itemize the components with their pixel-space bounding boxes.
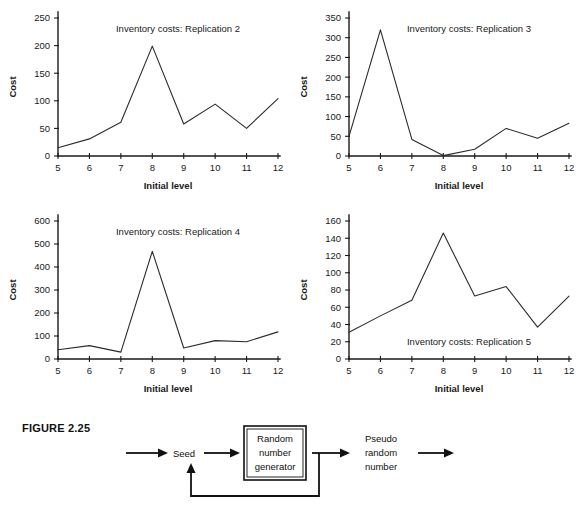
x-tick-label: 8	[150, 162, 155, 173]
x-axis-title: Initial level	[144, 180, 193, 191]
x-tick-label: 11	[533, 365, 543, 376]
x-tick-label: 10	[210, 365, 221, 376]
random-number-generator-flow-diagram: Seed Random number generator Pseudo rand…	[120, 413, 460, 503]
x-tick-label: 7	[118, 365, 123, 376]
figure-label: FIGURE 2.25	[22, 422, 90, 434]
x-axis-title: Initial level	[435, 383, 484, 394]
x-tick-label: 6	[87, 365, 92, 376]
x-tick-label: 5	[55, 365, 60, 376]
x-tick-label: 12	[564, 365, 575, 376]
chart-replication-3: 05010015020025030035056789101112Initial …	[291, 0, 581, 202]
y-axis-title: Cost	[298, 279, 309, 301]
x-tick-label: 6	[87, 162, 92, 173]
y-axis-ticks: 020406080100120140160	[325, 215, 350, 364]
y-tick-label: 100	[34, 330, 50, 341]
x-tick-label: 9	[181, 162, 186, 173]
x-tick-label: 9	[472, 162, 477, 173]
flow-node-generator-line1: Random	[257, 433, 293, 444]
y-tick-label: 0	[336, 150, 341, 161]
x-tick-label: 7	[118, 162, 123, 173]
x-tick-label: 12	[564, 162, 575, 173]
generator-to-output-arrow-icon	[312, 449, 350, 458]
x-tick-label: 10	[501, 162, 512, 173]
y-tick-label: 150	[325, 91, 341, 102]
x-tick-label: 5	[346, 162, 351, 173]
output-arrow-icon	[418, 449, 454, 458]
y-tick-label: 40	[330, 319, 341, 330]
y-axis-title: Cost	[7, 76, 18, 98]
y-tick-label: 100	[325, 267, 341, 278]
y-tick-label: 0	[336, 353, 341, 364]
seed-to-generator-arrow-icon	[204, 449, 240, 458]
chart-svg: 010020030040050060056789101112Initial le…	[0, 203, 290, 405]
x-tick-label: 8	[441, 365, 446, 376]
x-tick-label: 6	[378, 162, 383, 173]
x-tick-label: 10	[210, 162, 221, 173]
data-series-line	[349, 233, 569, 332]
y-tick-label: 250	[34, 12, 50, 23]
x-axis-title: Initial level	[144, 383, 193, 394]
y-tick-label: 0	[45, 353, 50, 364]
charts-grid: 05010015020025056789101112Initial levelC…	[0, 0, 581, 405]
x-tick-label: 11	[533, 162, 543, 173]
y-tick-label: 200	[34, 40, 50, 51]
y-axis-ticks: 050100150200250300350	[325, 12, 350, 161]
chart-replication-5: 02040608010012014016056789101112Initial …	[291, 203, 581, 405]
chart-title: Inventory costs: Replication 4	[116, 226, 240, 237]
flow-node-output-line2: random	[365, 447, 397, 458]
chart-svg: 02040608010012014016056789101112Initial …	[291, 203, 581, 405]
y-tick-label: 350	[325, 12, 341, 23]
y-tick-label: 400	[34, 261, 50, 272]
y-tick-label: 140	[325, 233, 341, 244]
flow-node-output-line1: Pseudo	[365, 433, 397, 444]
y-tick-label: 500	[34, 238, 50, 249]
y-axis-title: Cost	[7, 279, 18, 301]
y-tick-label: 120	[325, 250, 341, 261]
y-tick-label: 50	[330, 131, 341, 142]
x-tick-label: 7	[409, 162, 414, 173]
chart-title: Inventory costs: Replication 2	[116, 23, 240, 34]
y-tick-label: 300	[34, 284, 50, 295]
y-tick-label: 200	[325, 72, 341, 83]
y-axis-title: Cost	[298, 76, 309, 98]
flow-node-generator-line2: number	[259, 447, 291, 458]
x-tick-label: 10	[501, 365, 512, 376]
figure-block: FIGURE 2.25 Seed Random number generator…	[0, 405, 581, 506]
y-tick-label: 100	[34, 95, 50, 106]
y-tick-label: 250	[325, 52, 341, 63]
input-arrow-icon	[126, 449, 168, 458]
x-tick-label: 7	[409, 365, 414, 376]
y-tick-label: 600	[34, 215, 50, 226]
chart-svg: 05010015020025030035056789101112Initial …	[291, 0, 581, 202]
x-tick-label: 6	[378, 365, 383, 376]
y-tick-label: 50	[39, 123, 50, 134]
chart-title: Inventory costs: Replication 3	[407, 23, 531, 34]
flow-node-seed-label: Seed	[173, 448, 195, 459]
x-axis-title: Initial level	[435, 180, 484, 191]
y-tick-label: 300	[325, 32, 341, 43]
y-tick-label: 160	[325, 215, 341, 226]
chart-replication-2: 05010015020025056789101112Initial levelC…	[0, 0, 290, 202]
x-tick-label: 5	[55, 162, 60, 173]
y-tick-label: 150	[34, 68, 50, 79]
data-series-line	[58, 251, 278, 352]
y-axis-ticks: 050100150200250	[34, 12, 59, 161]
chart-replication-4: 010020030040050060056789101112Initial le…	[0, 203, 290, 405]
x-tick-label: 11	[242, 365, 252, 376]
x-tick-label: 12	[273, 162, 284, 173]
x-tick-label: 5	[346, 365, 351, 376]
flow-node-generator-box: Random number generator	[244, 426, 306, 480]
x-tick-label: 11	[242, 162, 252, 173]
flow-node-generator-line3: generator	[255, 461, 296, 472]
y-tick-label: 60	[330, 302, 341, 313]
feedback-loop-arrow-icon	[187, 453, 320, 496]
flow-node-output-line3: number	[365, 461, 397, 472]
x-tick-label: 12	[273, 365, 284, 376]
y-tick-label: 20	[330, 336, 341, 347]
data-series-line	[58, 46, 278, 148]
y-tick-label: 0	[45, 150, 50, 161]
y-axis-ticks: 0100200300400500600	[34, 215, 59, 364]
x-tick-label: 9	[181, 365, 186, 376]
chart-title: Inventory costs: Replication 5	[407, 336, 531, 347]
y-tick-label: 100	[325, 111, 341, 122]
